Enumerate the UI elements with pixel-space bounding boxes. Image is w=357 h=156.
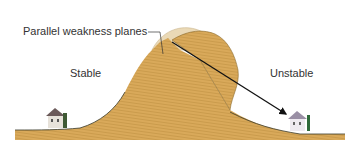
weakness-planes-label: Parallel weakness planes xyxy=(23,26,147,37)
unstable-label: Unstable xyxy=(270,68,313,79)
landslide-diagram: Parallel weakness planes Stable Unstable xyxy=(0,0,357,156)
stable-label: Stable xyxy=(70,68,101,79)
